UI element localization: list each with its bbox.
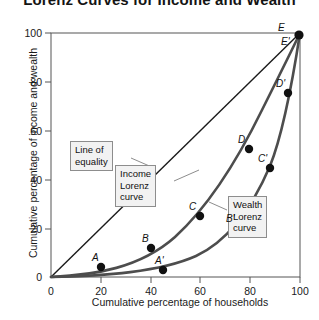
y-tick-label-100: 100 bbox=[14, 27, 42, 39]
callout-income-lorenz-curve: Income Lorenz curve bbox=[115, 165, 156, 207]
point-label-b: B bbox=[142, 233, 149, 244]
callout-line-1: Income bbox=[120, 168, 151, 180]
point-label-e: E bbox=[278, 22, 285, 33]
point-label-b-prime: B' bbox=[226, 213, 235, 224]
data-point-c bbox=[196, 212, 204, 220]
point-label-c: C bbox=[189, 201, 196, 212]
callout-line-2: equality bbox=[75, 156, 108, 168]
x-axis-ticks bbox=[101, 277, 300, 283]
x-axis-label: Cumulative percentage of households bbox=[55, 296, 305, 308]
point-label-c-prime: C' bbox=[258, 153, 267, 164]
point-label-e-prime: E' bbox=[281, 36, 290, 47]
data-point-a-prime bbox=[159, 266, 167, 274]
data-point-e bbox=[294, 30, 303, 39]
point-label-d-prime: D' bbox=[276, 78, 285, 89]
lorenz-curve-figure: Lorenz Curves for Income and Wealth bbox=[0, 0, 319, 320]
point-label-a-prime: A' bbox=[155, 255, 164, 266]
y-tick-label-0: 0 bbox=[14, 271, 42, 283]
data-point-b bbox=[147, 244, 155, 252]
data-point-c-prime bbox=[266, 164, 274, 172]
data-point-a bbox=[97, 263, 105, 271]
callout-line-1: Wealth bbox=[233, 199, 262, 211]
callout-line-2: Lorenz bbox=[233, 211, 262, 223]
plot-area bbox=[0, 0, 319, 320]
data-point-d-prime bbox=[284, 89, 292, 97]
callout-line-3: curve bbox=[120, 191, 151, 203]
callout-line-2: Lorenz bbox=[120, 180, 151, 192]
callout-line-of-equality: Line of equality bbox=[70, 141, 113, 171]
callout-line-3: curve bbox=[233, 222, 262, 234]
data-point-d bbox=[245, 145, 253, 153]
point-label-d: D bbox=[238, 134, 245, 145]
y-axis-label: Cumulative percentage of income and weal… bbox=[27, 43, 39, 263]
callout-line-1: Line of bbox=[75, 144, 108, 156]
y-axis-ticks bbox=[45, 33, 51, 229]
point-label-a: A bbox=[92, 252, 99, 263]
